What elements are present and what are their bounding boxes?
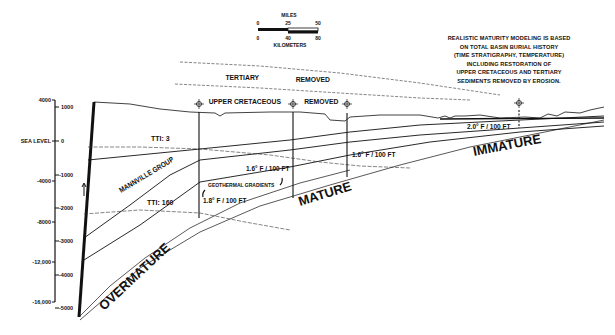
- gradient-well-3: 1.6° F / 100 FT: [352, 151, 395, 158]
- meters-tick-minus-4000: -4000: [59, 272, 73, 278]
- gradient-well-4: 2.0° F / 100 FT: [467, 123, 510, 130]
- note-line: SEDIMENTS REMOVED BY EROSION.: [404, 77, 614, 86]
- note-line: (TIME STRATIGRAPHY, TEMPERATURE): [404, 51, 614, 60]
- fault-arrow-icon: [82, 183, 86, 196]
- scale-bar-segment-dark: [258, 28, 288, 31]
- gradient-well-2: 1.6° F / 100 FT: [246, 165, 289, 172]
- note-line: ON TOTAL BASIN BURIAL HISTORY: [404, 43, 614, 52]
- feet-tick-minus-4000: -4000: [37, 178, 51, 184]
- tertiary-removed-label: REMOVED: [296, 74, 331, 84]
- feet-tick-minus-8000: -8000: [37, 219, 51, 225]
- scale-bar-segment-dark-2: [288, 31, 318, 34]
- scale-km-tick-0: 0: [257, 35, 260, 41]
- meters-tick-1000: 1000: [61, 104, 73, 110]
- scale-km-tick-80: 80: [315, 35, 321, 41]
- meters-tick-0: 0: [61, 138, 64, 144]
- meters-tick-minus-3000: -3000: [59, 238, 73, 244]
- gradient-well-1: 1.8° F / 100 FT: [203, 197, 246, 204]
- feet-tick-4000: 4000: [39, 97, 51, 103]
- fault-line: [79, 102, 94, 317]
- scale-km-tick-40: 40: [285, 35, 291, 41]
- geothermal-gradients-caption: GEOTHERMAL GRADIENTS: [208, 182, 275, 188]
- scale-miles-tick-50: 50: [315, 20, 321, 26]
- meters-tick-minus-5000: -5000: [59, 305, 73, 311]
- mature-label: MATURE: [296, 178, 353, 208]
- depth-axis-feet: 4000 SEA LEVEL -4000 -8000 -12,000 -16,0…: [21, 97, 55, 305]
- scale-miles-label: MILES: [281, 12, 297, 18]
- upper-cretaceous-label: UPPER CRETACEOUS: [209, 96, 281, 106]
- note-line: REALISTIC MATURITY MODELING IS BASED: [404, 34, 614, 43]
- tertiary-label: TERTIARY: [225, 72, 259, 82]
- overmature-label: OVERMATURE: [96, 240, 173, 314]
- gradient-arrow-left-icon: [203, 190, 205, 197]
- mannville-group-label: MANNVILLE GROUP: [118, 155, 176, 194]
- mature-boundary: [80, 120, 604, 320]
- scale-bar: MILES 0 25 50 0 40 80 KILOMETERS: [257, 12, 321, 48]
- note-line: UPPER CRETACEOUS AND TERTIARY: [404, 68, 614, 77]
- depth-axis-meters: 1000 0 -1000 -2000 -3000 -4000 -5000: [55, 104, 73, 311]
- meters-tick-minus-1000: -1000: [59, 172, 73, 178]
- well-3: [342, 99, 352, 177]
- scale-miles-tick-25: 25: [285, 20, 291, 26]
- scale-miles-tick-0: 0: [257, 20, 260, 26]
- tti-3-label: TTI: 3: [151, 135, 170, 142]
- ground-surface-east: [440, 118, 604, 119]
- well-2: [288, 99, 298, 198]
- well-4: [514, 98, 524, 128]
- note-line: INCLUDING RESTORATION OF: [404, 60, 614, 69]
- tti-160-label: TTI: 160: [147, 199, 174, 206]
- gradient-arrow-right-icon: [280, 178, 282, 185]
- tti-160-contour: [84, 210, 290, 230]
- meters-tick-minus-2000: -2000: [59, 205, 73, 211]
- modeling-note: REALISTIC MATURITY MODELING IS BASED ON …: [404, 34, 614, 86]
- scale-km-label: KILOMETERS: [274, 42, 307, 48]
- feet-tick-minus-16000: -16,000: [32, 299, 51, 305]
- upper-cretaceous-removed-label: REMOVED: [304, 96, 339, 106]
- feet-tick-minus-12000: -12,000: [32, 259, 51, 265]
- immature-label: IMMATURE: [472, 131, 543, 159]
- feet-tick-sea-level: SEA LEVEL: [21, 138, 52, 144]
